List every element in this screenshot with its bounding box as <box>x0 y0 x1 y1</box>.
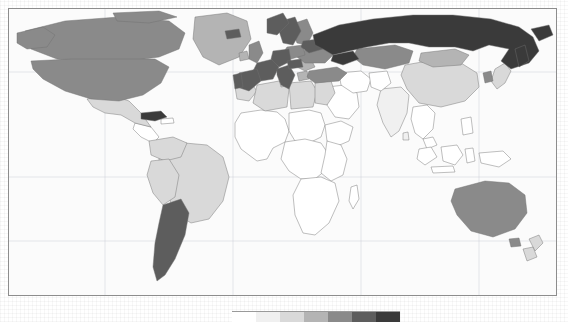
map-frame <box>8 8 557 296</box>
region-libya <box>289 81 317 109</box>
region-ireland <box>239 51 249 61</box>
legend-swatch-4 <box>328 312 352 322</box>
legend-swatch-1 <box>256 312 280 322</box>
legend-swatch-6 <box>376 312 400 322</box>
region-iceland <box>225 29 241 39</box>
region-sulawesi <box>465 148 475 163</box>
figure-title <box>0 0 1 1</box>
region-south-korea <box>483 71 493 83</box>
legend-swatch-5 <box>352 312 376 322</box>
legend-swatch-0 <box>232 312 256 322</box>
region-java <box>431 166 455 173</box>
world-choropleth-svg <box>9 9 556 295</box>
region-tasmania <box>509 238 521 247</box>
region-portugal <box>233 73 243 89</box>
legend-swatch-3 <box>304 312 328 322</box>
region-sri-lanka <box>403 132 409 140</box>
legend-note: legend bar cropped at bottom edge of ima… <box>0 0 1 1</box>
region-group-very-low <box>403 132 409 140</box>
region-austria-hungary <box>287 59 303 69</box>
region-hispaniola <box>161 118 174 124</box>
chart-x-axis-label <box>0 0 1 1</box>
figure-canvas: legend bar cropped at bottom edge of ima… <box>0 0 568 322</box>
region-philippines <box>461 117 473 135</box>
legend-swatch-2 <box>280 312 304 322</box>
chart-y-axis-label <box>0 0 1 1</box>
legend-bar <box>232 311 400 322</box>
